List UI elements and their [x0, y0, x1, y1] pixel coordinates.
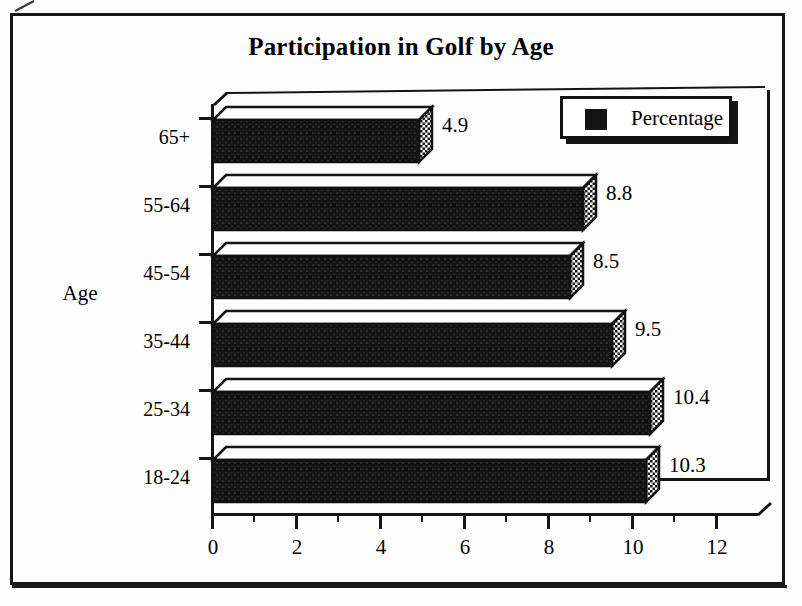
bar-18-24 — [213, 447, 659, 502]
legend-swatch-percentage — [585, 109, 607, 130]
bar-25-34 — [213, 379, 663, 434]
scanned-page: Participation in Golf by Age — [0, 0, 802, 606]
bar-value-label-55-64: 8.8 — [606, 181, 632, 206]
chart-legend: Percentage — [560, 96, 732, 139]
x-tick-label-0: 0 — [188, 535, 238, 560]
page-bottom-rule — [12, 585, 787, 588]
y-tick-label-25-34: 25-34 — [90, 398, 190, 421]
bar-55-64 — [213, 175, 596, 230]
x-tick-label-2: 2 — [272, 535, 322, 560]
bar-value-label-65plus: 4.9 — [442, 113, 468, 138]
y-axis-title: Age — [30, 281, 130, 306]
bar-value-label-45-54: 8.5 — [593, 249, 619, 274]
y-tick-label-18-24: 18-24 — [90, 466, 190, 489]
y-tick-label-55-64: 55-64 — [90, 194, 190, 217]
x-tick-label-10: 10 — [608, 535, 658, 560]
y-tick-label-65plus: 65+ — [90, 126, 190, 149]
legend-label-percentage: Percentage — [631, 106, 723, 131]
bar-value-label-18-24: 10.3 — [669, 453, 706, 478]
bar-65plus — [213, 107, 432, 162]
bar-45-54 — [213, 243, 583, 298]
bar-value-label-35-44: 9.5 — [635, 317, 661, 342]
x-tick-label-6: 6 — [440, 535, 490, 560]
x-tick-label-8: 8 — [524, 535, 574, 560]
x-tick-label-4: 4 — [356, 535, 406, 560]
y-tick-label-35-44: 35-44 — [90, 330, 190, 353]
x-tick-label-12: 12 — [692, 535, 742, 560]
bar-value-label-25-34: 10.4 — [673, 385, 710, 410]
bar-35-44 — [213, 311, 625, 366]
